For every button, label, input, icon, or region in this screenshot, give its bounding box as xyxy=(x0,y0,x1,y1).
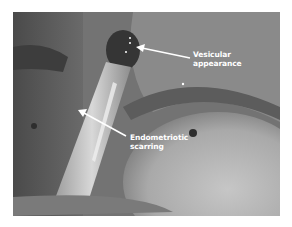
annotation-label-vesicular: Vesicular appearance xyxy=(193,50,242,68)
annotation-label-scarring: Endometriotic scarring xyxy=(130,133,188,151)
annotation-arrows xyxy=(0,0,292,227)
arrow-left-icon xyxy=(136,44,190,58)
annotation-label-line: scarring xyxy=(130,142,188,151)
annotation-label-line: appearance xyxy=(193,59,242,68)
annotation-label-line: Vesicular xyxy=(193,50,242,59)
annotation-label-line: Endometriotic xyxy=(130,133,188,142)
arrow-up-left-icon xyxy=(78,109,126,136)
